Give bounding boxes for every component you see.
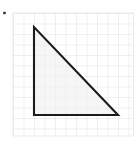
grid-figure-svg [0, 0, 140, 142]
list-bullet-icon [3, 12, 5, 14]
figure-container [0, 0, 140, 142]
